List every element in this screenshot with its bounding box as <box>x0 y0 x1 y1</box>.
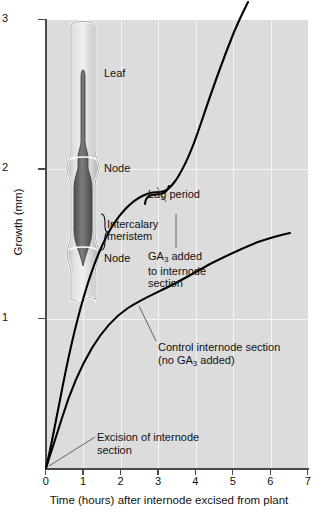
excision-text-line1: Excision of internode <box>97 431 199 443</box>
annotation-lag-period: Lag period <box>148 188 200 201</box>
ga3-text-ga: GA <box>148 250 164 262</box>
leader-control <box>139 306 156 341</box>
control-text-line1: Control internode section <box>158 341 280 353</box>
annotation-excision: Excision of internode section <box>97 431 217 456</box>
ga3-text-line4: section <box>148 277 183 289</box>
annotation-ga3-added: GA3 added to internode section <box>148 250 240 290</box>
annotation-control-section: Control internode section (no GA3 added) <box>158 341 308 368</box>
figure-root: 3 2 1 0 1 2 3 4 5 6 7 Growth (mm) Time (… <box>0 0 324 518</box>
control-text-line2b: added) <box>197 354 234 366</box>
control-subscript: 3 <box>193 359 197 368</box>
excision-text-line2: section <box>97 444 132 456</box>
ga3-subscript: 3 <box>164 255 168 264</box>
control-text-line2a: (no GA <box>158 354 193 366</box>
leader-excision <box>49 437 95 466</box>
ga3-text-line3: to internode <box>148 265 206 277</box>
ga3-text-added: added <box>168 250 202 262</box>
